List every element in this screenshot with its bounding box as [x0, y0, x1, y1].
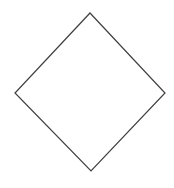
drawing-canvas	[0, 0, 174, 188]
shape-canvas-svg	[0, 0, 174, 188]
